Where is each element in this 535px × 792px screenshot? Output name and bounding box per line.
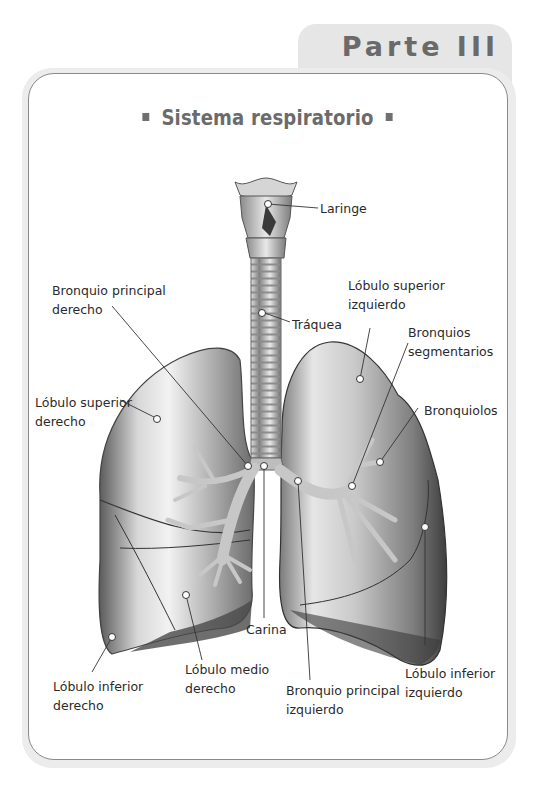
label-lobulo-superior-derecho: Lóbulo superior derecho xyxy=(35,393,132,431)
larynx xyxy=(235,178,297,258)
label-laringe: Laringe xyxy=(320,199,367,218)
label-bronquios-segmentarios: Bronquios segmentarios xyxy=(408,323,493,361)
label-bronquiolos: Bronquiolos xyxy=(424,401,498,420)
label-lobulo-inferior-izquierdo: Lóbulo inferior izquierdo xyxy=(405,664,495,702)
label-traquea: Tráquea xyxy=(292,315,342,334)
label-bronquio-principal-derecho: Bronquio principal derecho xyxy=(52,281,166,319)
label-lobulo-medio-derecho: Lóbulo medio derecho xyxy=(185,660,269,698)
label-lobulo-superior-izquierdo: Lóbulo superior izquierdo xyxy=(348,276,445,314)
label-bronquio-principal-izquierdo: Bronquio principal izquierdo xyxy=(286,681,400,719)
trachea xyxy=(251,258,281,458)
label-lobulo-inferior-derecho: Lóbulo inferior derecho xyxy=(53,677,143,715)
label-carina: Carina xyxy=(246,620,287,639)
